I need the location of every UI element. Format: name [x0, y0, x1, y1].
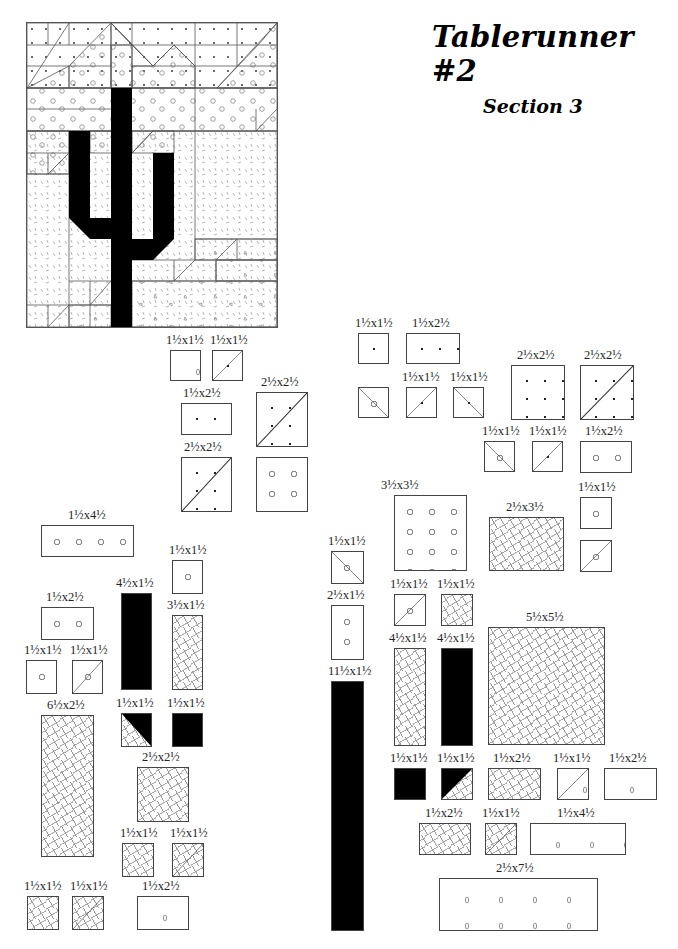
seam-line-icon	[486, 824, 516, 854]
piece-size-label: 1½x1½	[70, 879, 108, 894]
piece-size-label: 1½x1½	[24, 643, 62, 658]
seam-line-icon	[73, 897, 103, 929]
piece-size-label: 1½x2½	[493, 751, 531, 766]
fabric-piece	[331, 551, 364, 584]
fabric-piece	[41, 525, 134, 557]
seam-line-icon	[581, 366, 633, 419]
fabric-piece	[331, 681, 364, 931]
fabric-piece	[121, 713, 152, 747]
piece-size-label: 1½x2½	[46, 590, 84, 605]
piece-size-label: 1½x1½	[450, 370, 488, 385]
piece-size-label: 3½x3½	[381, 478, 419, 493]
fabric-piece	[406, 387, 437, 418]
seam-line-icon	[442, 769, 472, 799]
piece-size-label: 1½x1½	[402, 370, 440, 385]
fabric-piece	[557, 768, 589, 800]
piece-size-label: 1½x2½	[142, 879, 180, 894]
fabric-piece	[137, 896, 189, 930]
piece-size-label: 4½x1½	[437, 631, 475, 646]
fabric-piece	[419, 823, 471, 855]
page-title: Tablerunner #2	[432, 20, 678, 88]
piece-size-label: 1½x1½	[169, 543, 207, 558]
fabric-piece	[256, 392, 308, 447]
fabric-piece	[580, 441, 632, 473]
seam-line-icon	[73, 661, 102, 693]
piece-size-label: 1½x1½	[355, 316, 393, 331]
seam-line-icon	[257, 393, 307, 446]
seam-line-icon	[558, 769, 588, 799]
fabric-piece	[489, 517, 564, 571]
fabric-piece	[172, 843, 204, 877]
fabric-piece	[604, 768, 657, 800]
piece-size-label: 1½x2½	[412, 316, 450, 331]
fabric-piece	[488, 768, 541, 800]
seam-line-icon	[359, 388, 388, 417]
fabric-piece	[394, 495, 467, 571]
fabric-piece	[441, 768, 473, 800]
piece-size-label: 1½x1½	[170, 826, 208, 841]
piece-size-label: 1½x1½	[328, 534, 366, 549]
seam-line-icon	[581, 541, 611, 571]
piece-size-label: 2½x1½	[327, 588, 365, 603]
fabric-piece	[331, 605, 364, 660]
piece-size-label: 1½x1½	[24, 879, 62, 894]
fabric-piece	[394, 648, 426, 746]
fabric-piece	[532, 441, 563, 472]
piece-size-label: 3½x1½	[167, 598, 205, 613]
piece-size-label: 1½x1½	[116, 696, 154, 711]
seam-line-icon	[332, 552, 363, 583]
piece-size-label: 2½x2½	[584, 348, 622, 363]
fabric-piece	[172, 615, 203, 690]
fabric-piece	[212, 350, 243, 381]
piece-size-label: 1½x4½	[68, 508, 106, 523]
fabric-piece	[484, 441, 515, 472]
piece-size-label: 1½x1½	[390, 751, 428, 766]
cactus-block-illustration	[27, 23, 277, 327]
fabric-piece	[121, 593, 152, 690]
fabric-piece	[453, 387, 484, 418]
piece-size-label: 1½x2½	[585, 424, 623, 439]
piece-size-label: 1½x1½	[529, 424, 567, 439]
fabric-piece	[530, 823, 626, 855]
fabric-piece	[41, 607, 94, 640]
seam-line-icon	[173, 844, 203, 876]
piece-size-label: 2½x3½	[506, 500, 544, 515]
piece-size-label: 2½x2½	[261, 375, 299, 390]
piece-size-label: 2½x7½	[496, 861, 534, 876]
fabric-piece	[172, 713, 203, 747]
fabric-piece	[181, 457, 232, 512]
fabric-piece	[358, 387, 389, 418]
seam-line-icon	[213, 351, 242, 380]
fabric-piece	[27, 896, 59, 930]
piece-size-label: 1½x1½	[482, 806, 520, 821]
piece-size-label: 1½x2½	[425, 806, 463, 821]
fabric-piece	[41, 715, 94, 857]
fabric-piece	[580, 365, 634, 420]
seam-line-icon	[182, 458, 231, 511]
fabric-piece	[441, 648, 473, 746]
piece-size-label: 6½x2½	[47, 698, 85, 713]
fabric-piece	[256, 457, 308, 512]
piece-size-label: 1½x1½	[437, 577, 475, 592]
piece-size-label: 11½x1½	[328, 664, 371, 679]
fabric-piece	[439, 878, 598, 931]
fabric-piece	[122, 843, 154, 877]
piece-size-label: 1½x1½	[70, 643, 108, 658]
piece-size-label: 1½x1½	[482, 424, 520, 439]
seam-line-icon	[122, 714, 151, 746]
finished-block-diagram	[26, 22, 278, 328]
fabric-piece	[170, 350, 201, 381]
seam-line-icon	[533, 442, 562, 471]
seam-line-icon	[454, 388, 483, 417]
fabric-piece	[511, 365, 565, 420]
piece-size-label: 1½x1½	[166, 333, 204, 348]
fabric-piece	[485, 823, 517, 855]
piece-size-label: 5½x5½	[526, 610, 564, 625]
piece-size-label: 1½x1½	[578, 480, 616, 495]
fabric-piece	[26, 660, 57, 694]
seam-line-icon	[407, 388, 436, 417]
piece-size-label: 1½x1½	[167, 696, 205, 711]
piece-size-label: 1½x1½	[553, 751, 591, 766]
fabric-piece	[137, 767, 189, 822]
piece-size-label: 2½x2½	[142, 750, 180, 765]
